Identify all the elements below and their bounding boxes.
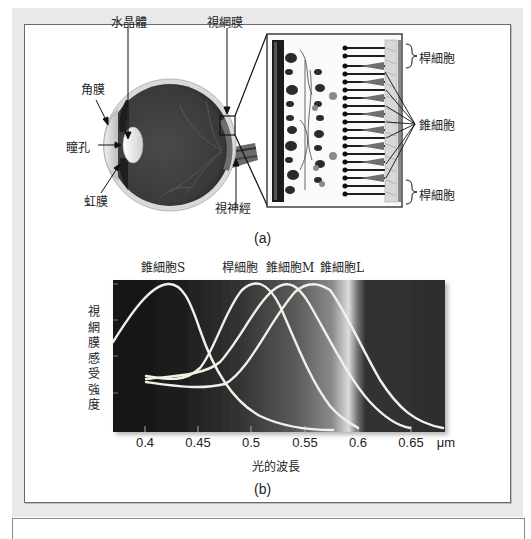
- x-tick-0.4: 0.4: [136, 435, 154, 450]
- x-tick-0.45: 0.45: [185, 435, 210, 450]
- series-label-s-cone: 錐細胞S: [141, 258, 185, 275]
- x-axis-label: 光的波長: [252, 457, 300, 474]
- series-label-l-cone: 錐細胞L: [320, 258, 364, 275]
- x-tick-0.6: 0.6: [349, 435, 367, 450]
- x-tick-0.55: 0.55: [292, 435, 317, 450]
- caption-b: (b): [254, 481, 271, 497]
- y-axis-label: 視 網 膜 感 受 強 度: [87, 305, 101, 414]
- x-unit: μm: [437, 435, 455, 450]
- series-label-rod: 桿細胞: [222, 258, 258, 275]
- x-tick-0.65: 0.65: [398, 435, 423, 450]
- series-label-m-cone: 錐細胞M: [266, 258, 314, 275]
- x-tick-0.5: 0.5: [242, 435, 260, 450]
